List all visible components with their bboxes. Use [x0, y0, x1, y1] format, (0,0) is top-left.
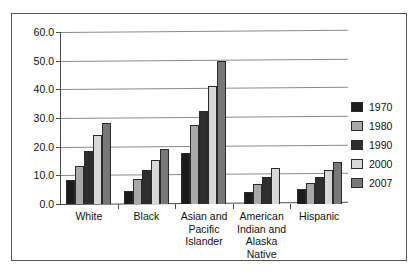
category-label-line: Alaska: [233, 235, 291, 248]
legend-swatch: [351, 102, 363, 112]
bar: [244, 192, 253, 204]
bar: [199, 111, 208, 204]
legend-swatch: [351, 159, 363, 169]
bar: [306, 183, 315, 204]
y-axis-tick-label: 10.0: [34, 170, 54, 181]
legend-label: 1990: [369, 140, 392, 151]
bar-group: [233, 32, 291, 204]
bar: [324, 170, 333, 204]
legend-swatch: [351, 140, 363, 150]
chart-legend: 19701980199020002007: [351, 98, 392, 193]
bar: [208, 86, 217, 204]
bar: [93, 135, 102, 204]
bar: [151, 160, 160, 204]
x-axis-separator-tick: [290, 204, 291, 209]
legend-item[interactable]: 1980: [351, 117, 392, 135]
y-axis-tick-label: 30.0: [34, 113, 54, 124]
x-axis-separator-tick: [118, 204, 119, 209]
bar-group: [290, 32, 348, 204]
category-label-line: White: [60, 210, 118, 223]
bar: [102, 123, 111, 204]
category-label-line: American: [233, 210, 291, 223]
bar-chart-figure: 0.010.020.030.040.050.060.0 WhiteBlackAs…: [11, 13, 407, 261]
y-axis-tick-label: 40.0: [34, 84, 54, 95]
bar: [84, 151, 93, 204]
x-axis-category-label: AmericanIndian andAlaskaNative: [233, 210, 291, 260]
bar: [142, 170, 151, 204]
category-label-line: Native: [233, 248, 291, 261]
category-label-line: Islander: [175, 235, 233, 248]
bar: [333, 162, 342, 204]
bar-group: [60, 32, 118, 204]
bar: [253, 184, 262, 204]
legend-item[interactable]: 1970: [351, 98, 392, 116]
bar-group: [175, 32, 233, 204]
legend-item[interactable]: 1990: [351, 136, 392, 154]
legend-label: 2007: [369, 178, 392, 189]
bar: [217, 61, 226, 204]
category-label-line: Black: [118, 210, 176, 223]
category-label-line: Hispanic: [290, 210, 348, 223]
plot-area: 0.010.020.030.040.050.060.0 WhiteBlackAs…: [60, 32, 348, 204]
legend-swatch: [351, 121, 363, 131]
y-axis-tick-mark: [56, 204, 61, 205]
bar: [66, 180, 75, 204]
bar: [75, 166, 84, 204]
bar: [133, 179, 142, 204]
bar: [190, 125, 199, 204]
category-label-line: Asian and: [175, 210, 233, 223]
bar: [160, 149, 169, 204]
bar: [262, 177, 271, 204]
legend-item[interactable]: 2007: [351, 174, 392, 192]
x-axis-category-label: Black: [118, 210, 176, 223]
bar: [124, 191, 133, 204]
y-axis-tick-label: 60.0: [34, 27, 54, 38]
bar: [271, 168, 280, 204]
x-axis-category-label: Asian andPacificIslander: [175, 210, 233, 248]
legend-swatch: [351, 178, 363, 188]
bar: [181, 153, 190, 204]
bar: [315, 177, 324, 204]
y-axis-tick-label: 0.0: [39, 199, 54, 210]
x-axis-category-label: White: [60, 210, 118, 223]
y-axis-tick-label: 20.0: [34, 141, 54, 152]
legend-label: 1970: [369, 102, 392, 113]
legend-label: 1980: [369, 121, 392, 132]
x-axis-separator-tick: [175, 204, 176, 209]
bar: [297, 189, 306, 204]
category-label-line: Pacific: [175, 223, 233, 236]
legend-label: 2000: [369, 159, 392, 170]
y-axis-tick-label: 50.0: [34, 55, 54, 66]
bar-group: [118, 32, 176, 204]
x-axis-separator-tick: [233, 204, 234, 209]
x-axis-category-label: Hispanic: [290, 210, 348, 223]
legend-item[interactable]: 2000: [351, 155, 392, 173]
category-label-line: Indian and: [233, 223, 291, 236]
